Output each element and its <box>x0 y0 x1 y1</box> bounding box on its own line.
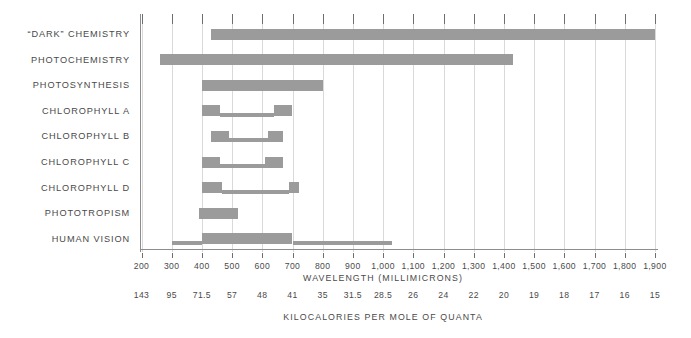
category-label: PHOTOCHEMISTRY <box>31 55 130 65</box>
category-label-column: “DARK” CHEMISTRYPHOTOCHEMISTRYPHOTOSYNTH… <box>0 0 130 260</box>
axis-tick-mark <box>323 253 324 258</box>
gridline <box>564 14 565 252</box>
gridline <box>474 14 475 252</box>
gridline <box>625 14 626 252</box>
bar-segment <box>211 131 229 142</box>
axis-tick-mark <box>655 253 656 258</box>
horizontal-axis-line <box>140 249 658 250</box>
axis-tick-mark <box>202 253 203 258</box>
axis-tick-mark <box>142 253 143 258</box>
bar-segment <box>222 190 290 194</box>
gridline <box>262 14 263 252</box>
wavelength-tick-label: 500 <box>224 261 240 271</box>
wavelength-tick-label: 1,800 <box>613 261 637 271</box>
category-label: CHLOROPHYLL B <box>42 131 130 141</box>
kilocalorie-tick-label: 24 <box>438 290 448 300</box>
kilocalorie-tick-label: 15 <box>650 290 660 300</box>
kilocalorie-tick-label: 18 <box>559 290 569 300</box>
axis-tick-mark <box>444 253 445 258</box>
wavelength-tick-label: 900 <box>345 261 361 271</box>
top-tick-mark <box>142 14 143 24</box>
wavelength-tick-label: 1,700 <box>583 261 607 271</box>
gridline <box>293 14 294 252</box>
kilocalorie-tick-label: 19 <box>529 290 539 300</box>
axis-tick-mark <box>474 253 475 258</box>
bar-segment <box>265 157 283 168</box>
plot-area <box>140 14 658 252</box>
wavelength-tick-label: 600 <box>255 261 271 271</box>
wavelength-tick-label: 200 <box>134 261 150 271</box>
bar-segment <box>202 105 220 116</box>
bar-segment <box>229 138 268 142</box>
wavelength-tick-label: 700 <box>285 261 301 271</box>
top-tick-mark <box>534 14 535 24</box>
wavelength-tick-label: 300 <box>164 261 180 271</box>
bar-segment <box>202 157 220 168</box>
kilocalorie-tick-label: 22 <box>469 290 479 300</box>
kilocalorie-tick-label: 48 <box>257 290 267 300</box>
bar-segment <box>274 105 292 116</box>
kilocalorie-tick-label: 17 <box>589 290 599 300</box>
top-tick-mark <box>625 14 626 24</box>
axis-tick-mark <box>504 253 505 258</box>
bar-segment <box>211 29 655 40</box>
bar-segment <box>172 241 202 245</box>
gridline <box>323 14 324 252</box>
gridline <box>504 14 505 252</box>
wavelength-tick-label: 1,900 <box>643 261 667 271</box>
wavelength-tick-label: 1,100 <box>402 261 426 271</box>
bar-segment <box>202 182 222 193</box>
kilocalorie-axis-title: KILOCALORIES PER MOLE OF QUANTA <box>283 312 483 322</box>
gridline <box>444 14 445 252</box>
gridline <box>534 14 535 252</box>
kilocalorie-tick-label: 71.5 <box>193 290 211 300</box>
wavelength-tick-label: 1,500 <box>522 261 546 271</box>
kilocalorie-tick-label: 28.5 <box>374 290 392 300</box>
wavelength-chart: “DARK” CHEMISTRYPHOTOCHEMISTRYPHOTOSYNTH… <box>0 0 691 338</box>
bar-segment <box>202 233 293 244</box>
top-tick-mark <box>564 14 565 24</box>
wavelength-tick-label: 1,200 <box>432 261 456 271</box>
axis-tick-mark <box>383 253 384 258</box>
top-tick-mark <box>323 14 324 24</box>
gridline <box>142 14 143 252</box>
category-label: HUMAN VISION <box>52 234 130 244</box>
axis-tick-mark <box>413 253 414 258</box>
wavelength-tick-label: 1,000 <box>371 261 395 271</box>
top-tick-mark <box>262 14 263 24</box>
wavelength-axis: 2003004005006007008009001,0001,1001,2001… <box>140 253 658 275</box>
bar-segment <box>199 208 238 219</box>
wavelength-tick-label: 1,400 <box>492 261 516 271</box>
bar-segment <box>220 164 265 168</box>
axis-tick-mark <box>353 253 354 258</box>
top-tick-mark <box>444 14 445 24</box>
category-label: CHLOROPHYLL A <box>42 106 130 116</box>
category-label: “DARK” CHEMISTRY <box>27 29 130 39</box>
gridline <box>172 14 173 252</box>
wavelength-tick-label: 1,300 <box>462 261 486 271</box>
bar-segment <box>289 182 298 193</box>
top-tick-mark <box>202 14 203 24</box>
gridline <box>595 14 596 252</box>
bar-segment <box>202 80 323 91</box>
category-label: CHLOROPHYLL D <box>41 183 130 193</box>
kilocalorie-tick-label: 95 <box>167 290 177 300</box>
category-label: CHLOROPHYLL C <box>41 157 130 167</box>
bar-segment <box>293 241 393 245</box>
top-tick-mark <box>474 14 475 24</box>
gridline <box>353 14 354 252</box>
top-tick-mark <box>595 14 596 24</box>
top-tick-mark <box>655 14 656 24</box>
axis-tick-mark <box>595 253 596 258</box>
top-tick-mark <box>172 14 173 24</box>
bar-segment <box>220 113 274 117</box>
axis-tick-mark <box>232 253 233 258</box>
kilocalorie-axis: 1439571.55748413531.528.5262422201918171… <box>140 290 658 310</box>
wavelength-tick-label: 800 <box>315 261 331 271</box>
axis-tick-mark <box>172 253 173 258</box>
axis-tick-mark <box>293 253 294 258</box>
kilocalorie-tick-label: 26 <box>408 290 418 300</box>
kilocalorie-tick-label: 31.5 <box>344 290 362 300</box>
gridline <box>383 14 384 252</box>
kilocalorie-tick-label: 20 <box>499 290 509 300</box>
